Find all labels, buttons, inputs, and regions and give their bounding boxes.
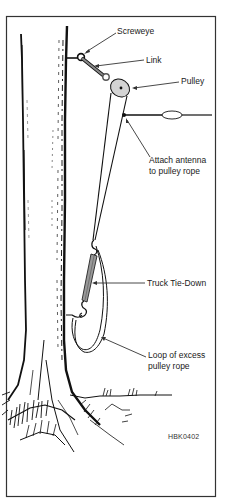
antenna-pulley-diagram: Screweye Link Pulley Attach antenna to p… (0, 0, 229, 502)
label-pulley: Pulley (181, 76, 204, 86)
label-attach-line2: to pulley rope (149, 166, 200, 176)
label-attach-line1: Attach antenna (149, 155, 206, 165)
label-tiedown: Truck Tie-Down (147, 278, 206, 288)
label-link: Link (146, 55, 162, 65)
label-screweye: Screweye (117, 26, 154, 36)
figure-code: HBK0402 (168, 433, 199, 440)
label-loop-line2: pulley rope (148, 361, 190, 371)
insulator (162, 111, 182, 119)
label-loop-line1: Loop of excess (148, 350, 205, 360)
